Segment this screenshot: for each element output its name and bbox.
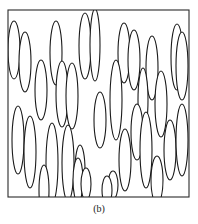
- grain-ellipse: [176, 32, 188, 100]
- subfigure-label: (b): [0, 203, 198, 214]
- grain-ellipse: [35, 60, 47, 120]
- grain-ellipse: [102, 176, 112, 204]
- grain-ellipse: [128, 30, 140, 90]
- grain-ellipse: [110, 60, 122, 140]
- grain-ellipse: [155, 71, 167, 137]
- caption-fragment: · · · · · · · · · · · · · · · · · · ·: [6, 217, 192, 224]
- grain-ellipse: [24, 116, 36, 188]
- grain-ellipse: [66, 63, 78, 129]
- grain-ellipse: [19, 32, 31, 92]
- grain-ellipse: [12, 106, 24, 174]
- grain-structure-diagram: [0, 0, 198, 224]
- grain-ellipse: [8, 21, 20, 79]
- grain-ellipse: [62, 125, 74, 201]
- grain-ellipse: [119, 129, 131, 191]
- grain-ellipse: [176, 104, 188, 176]
- grain-ellipse: [90, 9, 100, 81]
- grain-ellipse: [79, 13, 91, 79]
- grain-ellipse: [140, 112, 152, 188]
- grain-ellipse: [81, 168, 91, 200]
- grain-ellipses: [8, 9, 188, 215]
- grain-ellipse: [94, 92, 106, 148]
- grain-ellipse: [164, 120, 176, 180]
